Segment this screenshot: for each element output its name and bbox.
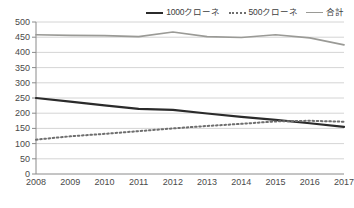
x-axis-tick-label: 2017: [334, 177, 354, 187]
x-axis-tick-label: 2015: [266, 177, 286, 187]
plot-area: 050100150200250300350400450500 200820092…: [0, 20, 352, 208]
series-line-2: [36, 32, 344, 45]
legend-item-500-krone[interactable]: 500クローネ: [229, 7, 298, 17]
x-axis-tick-label: 2010: [94, 177, 114, 187]
data-series: [36, 32, 344, 140]
legend-item-total[interactable]: 合計: [306, 7, 344, 17]
solid-gray-line-icon: [306, 8, 323, 16]
x-axis-tick-label: 2013: [197, 177, 217, 187]
legend-label-total: 合計: [326, 7, 344, 17]
x-axis-tick-label: 2014: [231, 177, 251, 187]
x-axis-tick-label: 2016: [300, 177, 320, 187]
x-axis-tick-label: 2011: [129, 177, 148, 187]
series-line-0: [36, 98, 344, 127]
legend-label-1000-krone: 1000クローネ: [166, 7, 219, 17]
series-line-1: [36, 121, 344, 140]
chart-legend: 1000クローネ 500クローネ 合計: [0, 4, 352, 20]
x-axis-tick-label: 2012: [163, 177, 183, 187]
gridlines: [36, 22, 344, 159]
legend-item-1000-krone[interactable]: 1000クローネ: [146, 7, 219, 17]
x-axis-tick-label: 2008: [26, 177, 46, 187]
legend-label-500-krone: 500クローネ: [249, 7, 298, 17]
dotted-line-icon: [229, 8, 246, 16]
x-axis-tick-label: 2009: [60, 177, 80, 187]
x-axis-labels: 2008200920102011201220132014201520162017: [36, 174, 344, 190]
solid-dark-line-icon: [146, 8, 163, 16]
